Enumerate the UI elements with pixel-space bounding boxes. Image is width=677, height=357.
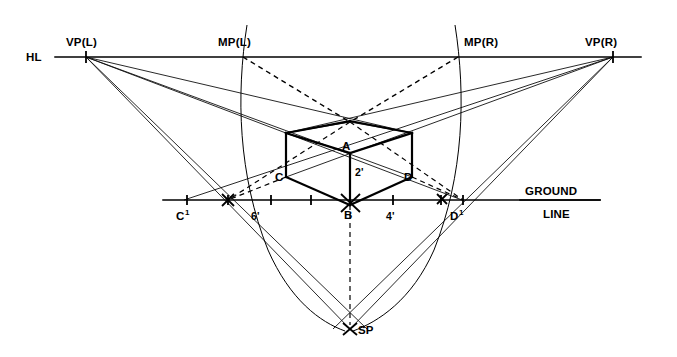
horizon-line-group — [55, 51, 641, 63]
box-construction-edges — [286, 122, 412, 133]
point-c-label: C — [275, 171, 284, 183]
point-d1-marker — [437, 194, 447, 204]
dashed-d-to-ground — [412, 177, 463, 200]
box-top-left-back-edge — [286, 121, 350, 133]
width-dimension-label: 4' — [386, 210, 395, 222]
vpl-line-to-box-top-right — [86, 57, 412, 133]
sp-label: SP — [358, 324, 374, 336]
vp-right-label: VP(R) — [585, 36, 617, 48]
box-solid — [286, 121, 412, 205]
point-d-label: D — [404, 171, 413, 183]
depth-dimension-label: 6' — [251, 210, 260, 222]
point-d1-label: D 1 — [450, 208, 464, 222]
hl-label: HL — [26, 51, 42, 63]
vpr-line-to-point-c — [286, 57, 613, 177]
point-a-label: A — [342, 140, 351, 152]
mp-right-label: MP(R) — [464, 36, 498, 48]
point-c1-superscript: 1 — [185, 208, 190, 217]
point-c1-letter: C — [176, 210, 185, 222]
point-d1-superscript: 1 — [459, 208, 464, 217]
point-c1-label: C 1 — [176, 208, 190, 222]
height-dimension-label: 2' — [355, 166, 364, 178]
box-top-right-front-edge — [350, 133, 412, 153]
arc-left-measuring — [241, 25, 345, 331]
vpl-line-to-point-d — [86, 57, 412, 177]
perspective-drawing-canvas: HL VP(L) VP(R) MP(L) MP(R) A B C D 2' 6'… — [0, 0, 677, 357]
box-top-left-front-edge — [286, 133, 350, 153]
vpr-line-to-c1 — [184, 57, 613, 200]
point-b-label: B — [344, 209, 353, 221]
ground-line-label-top: GROUND — [525, 185, 577, 197]
box-bottom-right-edge — [350, 177, 412, 205]
perspective-diagram: HL VP(L) VP(R) MP(L) MP(R) A B C D 2' 6'… — [0, 0, 677, 357]
ground-line-label-bottom: LINE — [543, 208, 570, 220]
vpr-line-to-box-top-left — [286, 57, 613, 133]
vpl-line-to-sp — [86, 57, 350, 329]
point-d1-letter: D — [450, 210, 459, 222]
vp-left-label: VP(L) — [66, 36, 97, 48]
mpr-dashed-to-rear-corner — [350, 57, 458, 122]
mpl-dashed-to-rear-corner — [243, 57, 350, 122]
box-bottom-left-edge — [286, 177, 350, 205]
measuring-point-dashed-lines — [228, 57, 463, 325]
vpl-convergence-lines — [86, 57, 462, 329]
mp-left-label: MP(L) — [218, 36, 251, 48]
